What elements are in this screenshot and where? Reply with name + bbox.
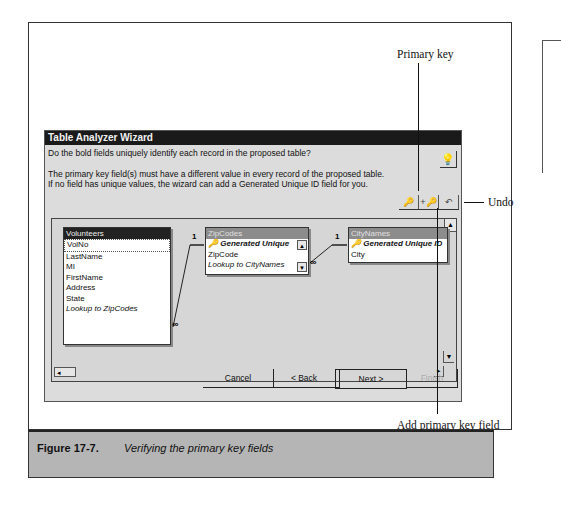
next-button[interactable]: Next > (335, 369, 407, 389)
callout-line-undo (464, 202, 484, 203)
one-side-marker: 1 (192, 232, 196, 241)
primary-key-button[interactable]: 🔑 (399, 195, 419, 209)
description-text: The primary key field(s) must have a dif… (48, 169, 388, 189)
lightbulb-icon: 💡 (441, 153, 455, 165)
description-line-1: The primary key field(s) must have a dif… (48, 169, 388, 179)
scroll-left-button[interactable]: ◂ (54, 367, 76, 377)
callout-line-primary-key (418, 63, 419, 191)
page-side-tab (542, 40, 561, 173)
back-button[interactable]: < Back (269, 369, 340, 388)
scroll-down-button[interactable]: ▼ (443, 351, 454, 363)
add-primary-key-button[interactable]: +🔑 (419, 195, 439, 209)
many-side-marker: ∞ (172, 319, 178, 329)
table-analyzer-dialog: Table Analyzer Wizard Do the bold fields… (44, 130, 462, 402)
table-layout-canvas: ▲ Volunteers VolNo LastName MI FirstName… (51, 218, 457, 382)
description-line-2: If no field has unique values, the wizar… (48, 179, 388, 189)
undo-icon: ↶ (445, 197, 453, 207)
caption-text: Verifying the primary key fields (124, 442, 273, 454)
add-key-icon: +🔑 (420, 197, 436, 207)
tips-button[interactable]: 💡 (440, 151, 457, 168)
callout-primary-key: Primary key (397, 48, 454, 60)
finish-button[interactable]: Finish (407, 369, 458, 388)
dialog-title: Table Analyzer Wizard (45, 131, 461, 145)
one-side-marker: 1 (335, 232, 339, 241)
callout-undo: Undo (488, 196, 514, 208)
undo-button[interactable]: ↶ (439, 195, 459, 209)
caption-number: Figure 17-7. (37, 442, 99, 454)
relationship-lines (52, 219, 458, 383)
key-icon: 🔑 (403, 197, 414, 207)
key-toolbar: 🔑 +🔑 ↶ (399, 195, 459, 210)
callout-line-add-primary-key (437, 208, 438, 414)
question-text: Do the bold fields uniquely identify eac… (48, 148, 311, 158)
figure-caption: Figure 17-7. Verifying the primary key f… (28, 430, 494, 478)
cancel-button[interactable]: Cancel (203, 369, 274, 388)
many-side-marker: ∞ (310, 257, 316, 267)
